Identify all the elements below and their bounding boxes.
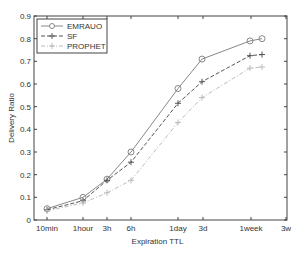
plus-marker-icon [104,177,110,183]
x-tick-label: 3h [103,224,112,233]
y-tick-label: 0.6 [20,80,32,89]
y-tick-label: 0.3 [20,148,32,157]
x-tick-label: 1day [169,224,186,233]
x-tick-label: 1week [239,224,263,233]
x-tick-label: 10min [36,224,58,233]
x-tick-label: 6h [127,224,136,233]
legend-label-sf: SF [67,32,77,41]
y-tick-label: 0.1 [20,193,32,202]
plus-marker-icon [247,53,253,59]
plus-marker-icon [199,79,205,85]
y-tick-label: 0.8 [20,35,32,44]
y-tick-label: 0.7 [20,57,32,66]
series-line-prophet [47,67,262,211]
series-line-emrauo [47,39,262,209]
series-line-sf [47,55,262,210]
y-tick-label: 0 [27,216,32,225]
x-axis-label: Expiration TTL [132,237,184,246]
plus-marker-icon [259,64,265,70]
plus-marker-icon [175,120,181,126]
plus-marker-icon [128,159,134,165]
y-axis-label: Delivery Ratio [7,93,16,143]
x-tick-label: 3w [281,224,291,233]
chart-canvas: 00.10.20.30.40.50.60.70.80.910min1hour3h… [0,0,302,253]
delivery-ratio-chart: 00.10.20.30.40.50.60.70.80.910min1hour3h… [0,0,302,253]
y-tick-label: 0.9 [20,12,32,21]
legend-label-prophet: PROPHET [67,42,106,51]
circle-marker-icon [50,24,55,29]
plus-marker-icon [104,190,110,196]
x-tick-label: 1hour [73,224,94,233]
plus-marker-icon [259,52,265,58]
plus-marker-icon [247,65,253,71]
y-tick-label: 0.2 [20,171,32,180]
legend-label-emrauo: EMRAUO [67,22,102,31]
y-tick-label: 0.4 [20,125,32,134]
plus-marker-icon [199,95,205,101]
y-tick-label: 0.5 [20,103,32,112]
x-tick-label: 3d [199,224,208,233]
